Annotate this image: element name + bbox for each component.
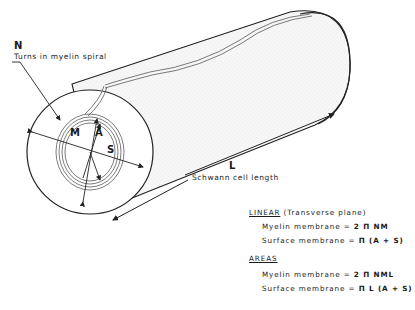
l-caption: Schwann cell length xyxy=(192,173,279,182)
linear-row-myelin: Myelin membrane = 2 Π NM xyxy=(262,222,388,231)
areas-header: AREAS xyxy=(249,254,277,263)
formula-expr: Π L (A + S) xyxy=(359,284,413,293)
formula-expr: Π (A + S) xyxy=(359,236,404,245)
areas-heading: AREAS xyxy=(249,254,277,263)
n-symbol: N xyxy=(14,40,23,51)
a-symbol: A xyxy=(95,127,103,138)
m-symbol: M xyxy=(70,127,81,138)
areas-row-surface: Surface membrane = Π L (A + S) xyxy=(262,284,413,293)
linear-heading: LINEAR (Transverse plane) xyxy=(249,208,366,217)
linear-header: LINEAR xyxy=(249,208,280,217)
s-symbol: S xyxy=(107,144,115,155)
linear-row-surface: Surface membrane = Π (A + S) xyxy=(262,236,404,245)
areas-row-myelin: Myelin membrane = 2 Π NML xyxy=(262,270,394,279)
formula-label: Myelin membrane = xyxy=(262,222,351,231)
linear-subheader: (Transverse plane) xyxy=(284,208,367,217)
formula-label: Surface membrane = xyxy=(262,284,356,293)
formula-expr: 2 Π NM xyxy=(354,222,389,231)
formula-label: Surface membrane = xyxy=(262,236,356,245)
n-caption: Turns in myelin spiral xyxy=(14,52,107,61)
formula-label: Myelin membrane = xyxy=(262,270,351,279)
myelinated-fiber-diagram xyxy=(0,0,415,310)
l-symbol: L xyxy=(229,160,236,171)
formula-expr: 2 Π NML xyxy=(354,270,394,279)
